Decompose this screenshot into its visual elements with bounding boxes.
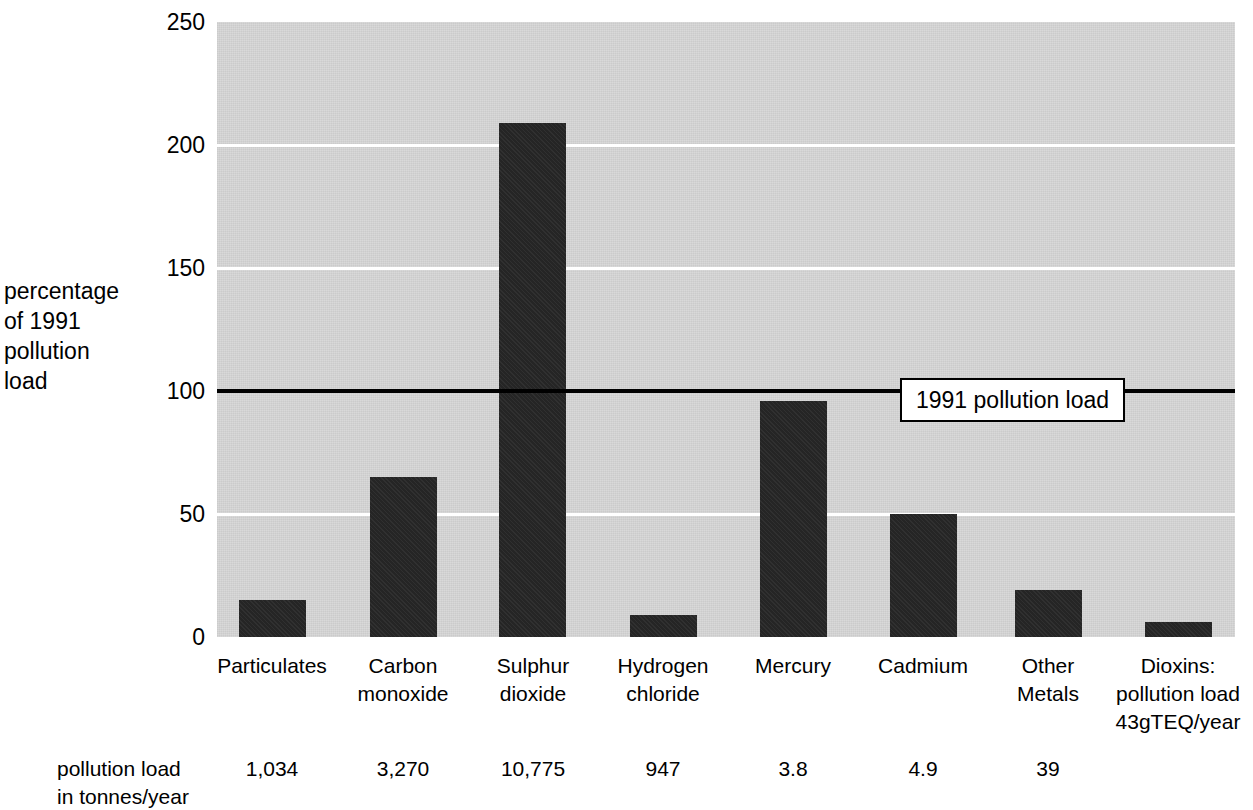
secondary-row-label: pollution load in tonnes/year [57, 755, 227, 810]
y-axis-title: percentage of 1991 pollution load [4, 276, 179, 396]
secondary-row-value: 3,270 [333, 755, 473, 783]
bar [760, 401, 827, 637]
bar [1145, 622, 1212, 637]
y-axis-tick-label: 200 [145, 134, 205, 157]
y-axis-tick-label: 250 [145, 11, 205, 34]
secondary-row-value: 39 [978, 755, 1118, 783]
secondary-row-value: 10,775 [463, 755, 603, 783]
gridline [217, 144, 1235, 147]
y-axis-tick-label: 100 [145, 380, 205, 403]
y-axis-tick-label: 0 [145, 626, 205, 649]
annotation-label: 1991 pollution load [916, 389, 1109, 412]
reference-line-annotation: 1991 pollution load [900, 378, 1125, 422]
secondary-row-value: 3.8 [723, 755, 863, 783]
y-axis-tick-label: 50 [145, 503, 205, 526]
bar [890, 514, 957, 637]
bar-chart: percentage of 1991 pollution load 050100… [0, 0, 1253, 810]
bar [1015, 590, 1082, 637]
secondary-row-value: 4.9 [853, 755, 993, 783]
plot-area [217, 22, 1235, 637]
secondary-row-value: 947 [593, 755, 733, 783]
gridline [217, 267, 1235, 270]
bar [630, 615, 697, 637]
y-axis-tick-label: 150 [145, 257, 205, 280]
x-axis-category-label: Dioxins: pollution load 43gTEQ/year [1088, 652, 1253, 736]
bar [499, 123, 566, 637]
bar [370, 477, 437, 637]
bar [239, 600, 306, 637]
